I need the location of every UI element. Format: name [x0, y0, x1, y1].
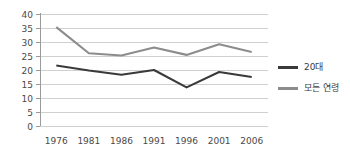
x-tick-label: 2001 — [208, 136, 231, 146]
line-chart: 0510152025303540 19761981198619911996200… — [0, 0, 350, 164]
y-axis-ticks — [36, 15, 40, 127]
y-tick-label: 30 — [22, 38, 34, 48]
y-tick-label: 25 — [22, 52, 33, 62]
x-tick-label: 1991 — [143, 136, 166, 146]
y-tick-label: 5 — [27, 108, 33, 118]
data-series — [56, 27, 251, 87]
legend-label-20dae: 20대 — [304, 63, 323, 72]
y-tick-label: 15 — [22, 80, 33, 90]
x-tick-label: 1986 — [110, 136, 133, 146]
y-tick-label: 0 — [27, 122, 33, 132]
legend-item-series-2: 모든 연령 — [278, 79, 350, 97]
series-line-2 — [56, 27, 251, 55]
x-tick-label: 1996 — [175, 136, 198, 146]
y-tick-label: 10 — [22, 94, 34, 104]
legend-swatch-20dae — [278, 66, 298, 69]
x-axis-labels: 1976198119861991199620012006 — [45, 136, 264, 146]
y-tick-label: 20 — [22, 66, 34, 76]
x-tick-label: 2006 — [240, 136, 263, 146]
chart-legend: 20대 모든 연령 — [278, 58, 350, 100]
x-tick-label: 1981 — [77, 136, 100, 146]
plot-area: 0510152025303540 19761981198619911996200… — [0, 0, 275, 164]
legend-label-all-ages: 모든 연령 — [304, 84, 339, 93]
chart-canvas: 0510152025303540 19761981198619911996200… — [0, 0, 275, 164]
y-tick-label: 35 — [22, 24, 33, 34]
x-tick-label: 1976 — [45, 136, 68, 146]
legend-item-series-1: 20대 — [278, 58, 350, 76]
legend-swatch-all-ages — [278, 87, 298, 90]
y-axis-labels: 0510152025303540 — [22, 10, 34, 132]
y-tick-label: 40 — [22, 10, 34, 20]
